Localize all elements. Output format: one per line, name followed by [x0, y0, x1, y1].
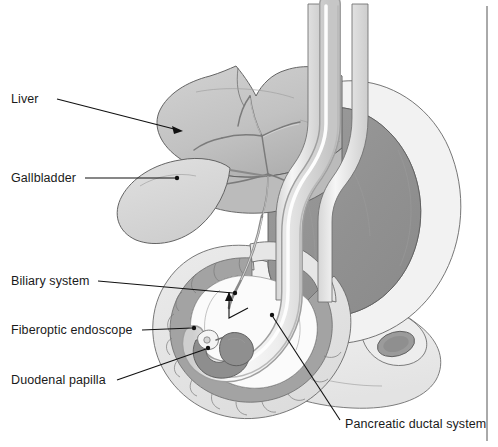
endoscope-light-port	[204, 337, 210, 343]
duodenal-papilla	[220, 333, 254, 366]
anatomy-illustration: Liver Gallbladder Biliary system Fiberop…	[0, 0, 498, 447]
label-fiberoptic-endoscope: Fiberoptic endoscope	[11, 323, 133, 337]
label-biliary-system: Biliary system	[11, 274, 90, 288]
label-pancreatic-ductal-system: Pancreatic ductal system	[345, 417, 486, 431]
leader-fiberoptic-endoscope-dot	[192, 326, 196, 330]
leader-pancreatic-ductal-system-dot	[270, 313, 274, 317]
label-duodenal-papilla: Duodenal papilla	[11, 373, 106, 387]
leader-biliary-system-dot	[233, 291, 237, 295]
label-liver: Liver	[11, 92, 39, 106]
leader-gallbladder-dot	[175, 176, 179, 180]
gallbladder-body	[117, 158, 230, 243]
ercp-anatomy-figure: Liver Gallbladder Biliary system Fiberop…	[0, 0, 498, 447]
duodenal-papilla-group	[220, 333, 254, 366]
leader-duodenal-papilla-dot	[206, 346, 210, 350]
label-gallbladder: Gallbladder	[11, 171, 76, 185]
